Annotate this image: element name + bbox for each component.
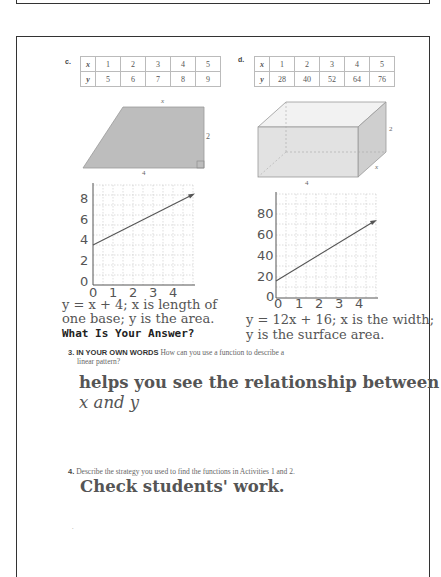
y-tick: 40 [257, 248, 274, 263]
x-tick: 2 [315, 296, 323, 311]
answer-4: Check students' work. [80, 477, 285, 497]
answer-c: y = x + 4; x is length of one base; y is… [62, 298, 242, 326]
x-tick: 3 [335, 296, 343, 311]
prism-height-label: 2 [389, 125, 393, 133]
table-cell: 52 [320, 72, 345, 87]
y-tick: 20 [257, 269, 274, 284]
question-number: 3. [68, 348, 74, 357]
y-tick: 6 [80, 212, 88, 227]
table-cell: 1 [270, 57, 295, 72]
table-cell: 5 [370, 57, 395, 72]
question-lead: IN YOUR OWN WORDS [76, 348, 158, 357]
question-text: Describe the strategy you used to find t… [76, 467, 295, 476]
y-tick: 60 [257, 227, 274, 242]
answer-3-line2: x and y [79, 393, 139, 413]
previous-page-box [16, 0, 430, 4]
prism-depth-label: x [375, 163, 378, 171]
y-tick: 4 [80, 232, 88, 247]
part-d-label: d. [238, 56, 244, 63]
table-cell: 5 [96, 72, 121, 87]
trapezoid-side-label: 2 [206, 132, 210, 141]
x-tick: 4 [355, 296, 363, 311]
answer-d-line1: y = 12x + 16; x is the width; [246, 313, 434, 327]
x-tick: 1 [295, 296, 303, 311]
table-c-y-header: y [81, 72, 96, 87]
stray-mark: . [72, 524, 74, 530]
table-cell: 76 [370, 72, 395, 87]
x-tick: 0 [274, 296, 282, 311]
table-c-x-header: x [81, 57, 96, 72]
part-c-label: c. [65, 58, 71, 65]
answer-3-line1: helps you see the relationship between [79, 373, 439, 393]
table-cell: 6 [121, 72, 146, 87]
table-cell: 7 [146, 72, 171, 87]
table-cell: 40 [295, 72, 320, 87]
table-cell: 28 [270, 72, 295, 87]
y-tick: 8 [80, 191, 88, 206]
table-cell: 2 [295, 57, 320, 72]
question-4: 4. Describe the strategy you used to fin… [68, 467, 295, 477]
question-3-text-line2: linear pattern? [77, 357, 120, 367]
table-cell: 3 [146, 57, 171, 72]
table-cell: 64 [345, 72, 370, 87]
question-number: 4. [68, 467, 74, 476]
table-cell: 4 [345, 57, 370, 72]
trapezoid-top-label: x [161, 97, 164, 105]
table-d-y-header: y [255, 72, 270, 87]
table-cell: 1 [96, 57, 121, 72]
table-cell: 3 [320, 57, 345, 72]
question-text: How can you use a function to describe a [160, 348, 284, 357]
table-cell: 8 [171, 72, 196, 87]
table-cell: 2 [121, 57, 146, 72]
table-d-x-header: x [255, 57, 270, 72]
section-heading: What Is Your Answer? [62, 327, 194, 340]
y-tick: 80 [257, 206, 274, 221]
table-d: x 1 2 3 4 5 y 28 40 52 64 76 [254, 56, 395, 87]
table-c: x 1 2 3 4 5 y 5 6 7 8 9 [80, 56, 221, 87]
table-cell: 9 [196, 72, 221, 87]
y-tick: 2 [80, 253, 88, 268]
answer-d-line2: y is the surface area. [246, 328, 384, 342]
table-cell: 4 [171, 57, 196, 72]
rectangular-prism-figure [240, 95, 410, 185]
table-cell: 5 [196, 57, 221, 72]
y-tick: 0 [80, 274, 88, 289]
